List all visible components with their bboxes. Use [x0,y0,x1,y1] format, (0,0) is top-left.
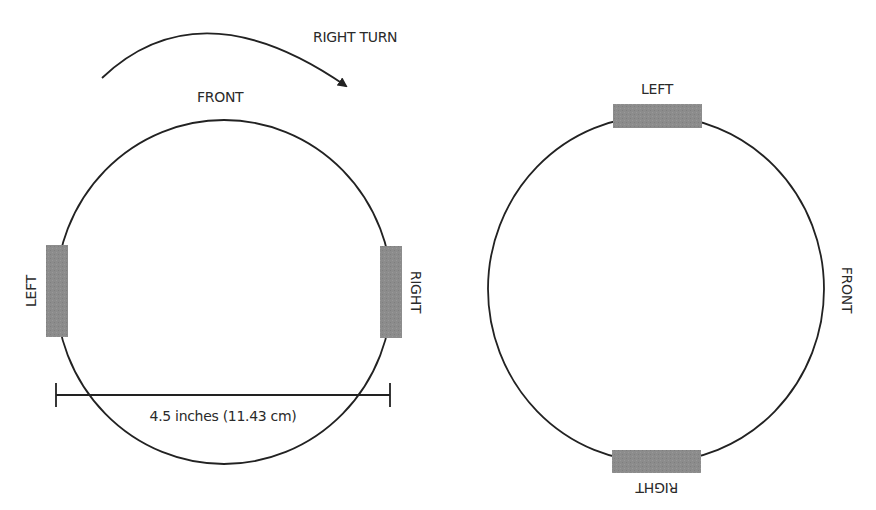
right-wheel-label-bottom: RIGHT [635,480,678,496]
front-label: FRONT [197,89,244,105]
left-wheel-top [613,104,702,128]
right-turn-label: RIGHT TURN [313,29,397,45]
right-turn-arrow [102,33,346,86]
dimension-label: 4.5 inches (11.43 cm) [150,408,297,424]
left-wheel [46,245,68,337]
robot-turn-diagram: RIGHT TURN FRONT LEFT RIGHT 4.5 inches (… [0,0,876,510]
left-wheel-label: LEFT [23,274,39,307]
right-wheel-bottom [612,450,701,473]
left-diagram: RIGHT TURN FRONT LEFT RIGHT 4.5 inches (… [23,29,424,464]
right-wheel-label: RIGHT [408,271,424,314]
front-label-rotated: FRONT [839,267,855,314]
left-wheel-label-top: LEFT [641,81,674,97]
right-diagram: LEFT RIGHT FRONT [488,81,855,496]
robot-body-circle-rotated [488,116,824,462]
right-wheel [380,246,402,338]
dimension-line [56,383,390,407]
